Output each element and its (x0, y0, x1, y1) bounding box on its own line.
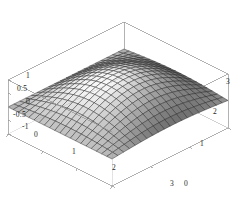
surface-plot-canvas (0, 0, 248, 199)
y_right-tick-label: 0 (184, 180, 188, 188)
z-tick-label: -1 (22, 123, 29, 131)
z-tick-label: 0 (26, 98, 30, 106)
x_front-tick-label: 0 (34, 131, 38, 139)
z-tick-label: 0.5 (17, 85, 27, 93)
y_right-tick-label: 1 (200, 140, 204, 148)
x_front-tick-label: 3 (170, 180, 174, 188)
surface-plot-figure: 10.50-0.5-101230123 (0, 0, 248, 199)
y_right-tick-label: 3 (226, 78, 230, 86)
x_front-tick-label: 2 (112, 164, 116, 172)
z-tick-label: -0.5 (13, 111, 26, 119)
z-tick-label: 1 (26, 72, 30, 80)
x_front-tick-label: 1 (72, 148, 76, 156)
surface-mesh (8, 49, 228, 159)
y_right-tick-label: 2 (213, 108, 217, 116)
